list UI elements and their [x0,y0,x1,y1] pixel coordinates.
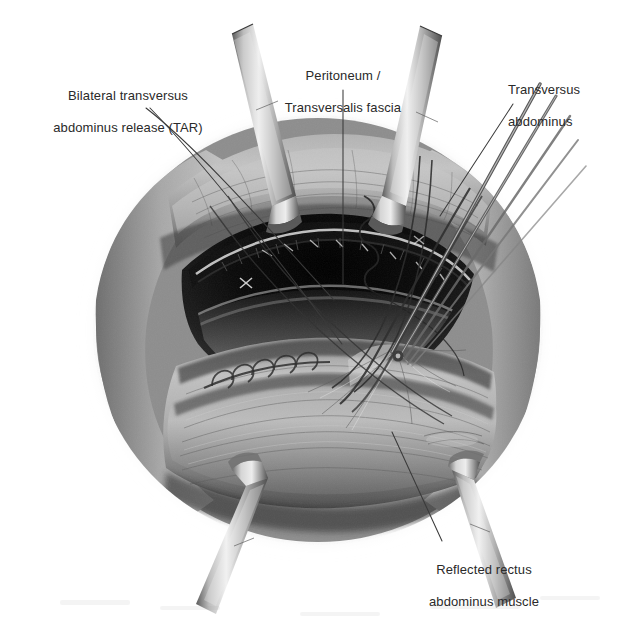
label-peritoneum-line1: Peritoneum / [306,68,381,83]
label-transversus-line1: Transversus [508,82,580,97]
annotation-label-transversus: Transversus abdominus [508,66,624,130]
label-rectus-line1: Reflected rectus [436,562,532,577]
label-transversus-line2: abdominus [508,114,573,129]
label-rectus-line2: abdominus muscle [429,594,539,609]
label-tar-line2: abdominus release (TAR) [53,120,202,135]
annotation-label-rectus: Reflected rectus abdominus muscle [400,546,568,610]
annotation-label-peritoneum: Peritoneum / Transversalis fascia [253,52,433,116]
medical-illustration-figure: Bilateral transversus abdominus release … [0,0,629,634]
label-peritoneum-line2: Transversalis fascia [285,100,401,115]
label-tar-line1: Bilateral transversus [68,88,188,103]
annotation-label-tar: Bilateral transversus abdominus release … [30,72,226,136]
